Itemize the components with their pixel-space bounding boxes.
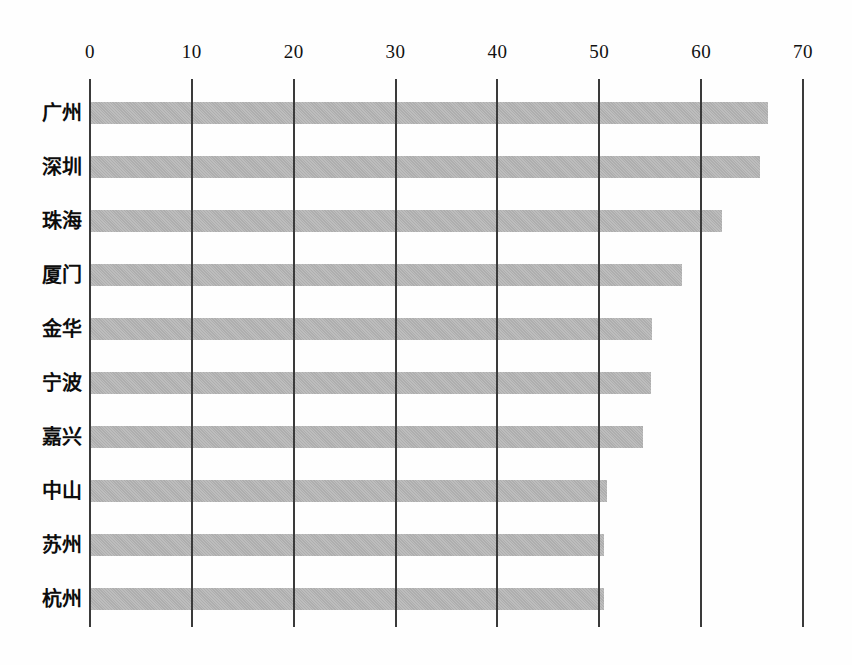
category-label: 嘉兴 [0, 425, 82, 449]
category-label: 金华 [0, 317, 82, 341]
category-label: 珠海 [0, 209, 82, 233]
x-tick-label: 40 [487, 41, 507, 63]
y-axis-category-labels: 广州深圳珠海厦门金华宁波嘉兴中山苏州杭州 [0, 0, 82, 665]
x-tick-label: 10 [182, 41, 202, 63]
category-label: 中山 [0, 479, 82, 503]
category-label: 厦门 [0, 263, 82, 287]
category-label: 广州 [0, 101, 82, 125]
x-tick-label: 30 [386, 41, 406, 63]
bar-chart: 010203040506070 广州深圳珠海厦门金华宁波嘉兴中山苏州杭州 [0, 0, 852, 665]
x-tick-label: 60 [691, 41, 711, 63]
category-label: 宁波 [0, 371, 82, 395]
x-tick-label: 70 [793, 41, 813, 63]
x-tick-label: 50 [589, 41, 609, 63]
category-label: 苏州 [0, 533, 82, 557]
category-label: 杭州 [0, 587, 82, 611]
category-label: 深圳 [0, 155, 82, 179]
x-tick-label: 20 [284, 41, 304, 63]
x-axis-tick-labels: 010203040506070 [0, 0, 852, 665]
x-tick-label: 0 [85, 41, 95, 63]
